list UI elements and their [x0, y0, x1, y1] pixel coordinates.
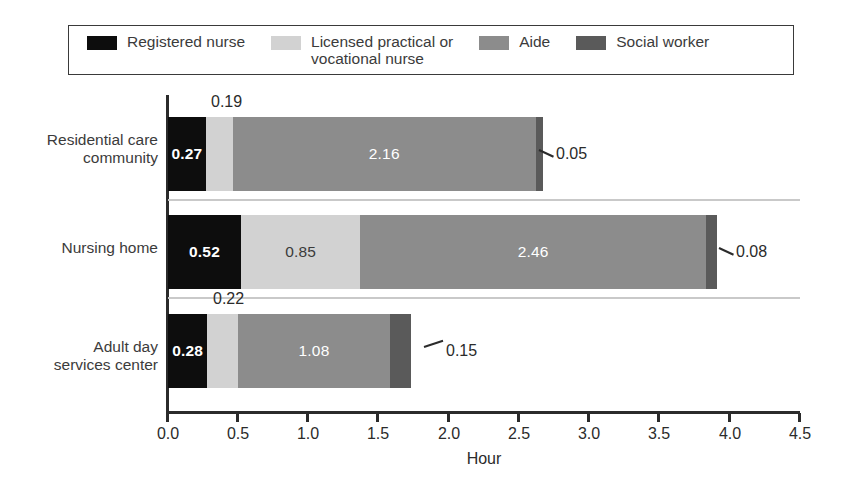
- legend-item-registered-nurse: Registered nurse: [87, 33, 245, 50]
- category-label-residential-care-community: Residential care community: [0, 131, 158, 167]
- bar-value-licensed-practical-nurse: 0.22: [213, 290, 244, 308]
- bar-value-licensed-practical-nurse: 0.85: [285, 243, 316, 261]
- bar-segment-registered-nurse: 0.52: [168, 215, 241, 289]
- x-tick-0: [166, 413, 169, 422]
- stacked-bar: 0.28 1.08: [168, 314, 411, 388]
- category-label-nursing-home: Nursing home: [0, 239, 158, 257]
- bar-segment-licensed-practical-nurse: [206, 117, 233, 191]
- bar-segment-aide: 2.16: [233, 117, 536, 191]
- bar-value-aide: 2.46: [518, 243, 549, 261]
- category-label-adult-day-services-center: Adult day services center: [0, 338, 158, 374]
- stacked-bar: 0.27 2.16: [168, 117, 543, 191]
- row-separator-1: [168, 199, 800, 201]
- bar-row-nursing-home: 0.52 0.85 2.46 0.08: [168, 215, 800, 289]
- bar-value-social-worker: 0.15: [446, 342, 477, 360]
- bar-value-licensed-practical-nurse: 0.19: [211, 93, 242, 111]
- bar-segment-aide: 1.08: [238, 314, 390, 388]
- legend-item-social-worker: Social worker: [576, 33, 709, 50]
- x-tick-label-8: 4.0: [719, 425, 741, 443]
- stacked-bar: 0.52 0.85 2.46: [168, 215, 717, 289]
- x-tick-label-1: 0.5: [227, 425, 249, 443]
- bar-row-residential-care-community: 0.27 2.16 0.19 0.05: [168, 117, 800, 191]
- x-tick-5: [517, 413, 520, 422]
- x-tick-label-7: 3.5: [648, 425, 670, 443]
- bar-value-registered-nurse: 0.52: [189, 243, 220, 261]
- bar-row-adult-day-services-center: 0.28 1.08 0.22 0.15: [168, 314, 800, 388]
- bar-segment-registered-nurse: 0.27: [168, 117, 206, 191]
- legend-swatch-licensed-practical-nurse: [271, 36, 301, 50]
- bar-value-aide: 2.16: [369, 145, 400, 163]
- bar-value-registered-nurse: 0.27: [171, 145, 202, 163]
- bar-value-social-worker: 0.08: [736, 243, 767, 261]
- bar-segment-social-worker: [706, 215, 717, 289]
- x-tick-6: [587, 413, 590, 422]
- x-tick-2: [306, 413, 309, 422]
- plot-area: 0.27 2.16 0.19 0.05 0.52 0.85: [168, 95, 800, 413]
- x-tick-label-0: 0.0: [157, 425, 179, 443]
- legend-label-registered-nurse: Registered nurse: [127, 33, 245, 50]
- x-tick-8: [728, 413, 731, 422]
- legend-items: Registered nurse Licensed practical or v…: [87, 33, 735, 67]
- x-tick-label-4: 2.0: [438, 425, 460, 443]
- legend-swatch-registered-nurse: [87, 36, 117, 50]
- x-tick-3: [376, 413, 379, 422]
- bar-segment-social-worker: [390, 314, 411, 388]
- x-tick-label-2: 1.0: [297, 425, 319, 443]
- bar-segment-licensed-practical-nurse: 0.85: [241, 215, 360, 289]
- x-tick-label-6: 3.0: [578, 425, 600, 443]
- x-axis-line: [166, 411, 800, 414]
- bar-segment-licensed-practical-nurse: [207, 314, 238, 388]
- chart-legend: Registered nurse Licensed practical or v…: [68, 25, 794, 75]
- x-tick-4: [447, 413, 450, 422]
- legend-label-licensed-practical-nurse: Licensed practical or vocational nurse: [311, 33, 453, 67]
- bar-segment-social-worker: [536, 117, 543, 191]
- x-tick-label-3: 1.5: [367, 425, 389, 443]
- callout-leader-line-social-worker: [424, 340, 444, 348]
- legend-item-aide: Aide: [479, 33, 550, 50]
- callout-leader-line-social-worker: [719, 247, 734, 256]
- chart-page: Registered nurse Licensed practical or v…: [0, 0, 866, 477]
- x-tick-1: [236, 413, 239, 422]
- x-tick-7: [657, 413, 660, 422]
- legend-item-licensed-practical-nurse: Licensed practical or vocational nurse: [271, 33, 453, 67]
- legend-label-social-worker: Social worker: [616, 33, 709, 50]
- bar-value-aide: 1.08: [299, 342, 330, 360]
- category-axis-labels: Residential care community Nursing home …: [0, 95, 158, 413]
- x-tick-label-9: 4.5: [789, 425, 811, 443]
- legend-swatch-social-worker: [576, 36, 606, 50]
- x-tick-9: [798, 413, 801, 422]
- legend-label-aide: Aide: [519, 33, 550, 50]
- bar-value-social-worker: 0.05: [556, 145, 587, 163]
- x-tick-label-5: 2.5: [508, 425, 530, 443]
- bar-value-registered-nurse: 0.28: [172, 342, 203, 360]
- row-separator-2: [168, 297, 800, 299]
- x-axis-title: Hour: [168, 450, 800, 468]
- bar-segment-registered-nurse: 0.28: [168, 314, 207, 388]
- legend-swatch-aide: [479, 36, 509, 50]
- bar-segment-aide: 2.46: [360, 215, 706, 289]
